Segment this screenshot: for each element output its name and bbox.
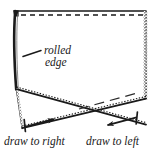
rolled-edge-label-line1: rolled	[44, 44, 71, 56]
panel-fill	[15, 11, 146, 128]
rolled-edge-label-line2: edge	[44, 56, 71, 68]
rolled-edge-label: rolled edge	[44, 44, 71, 69]
draw-to-right-arrow-tick	[24, 120, 25, 132]
right-gathered-edge-texture	[144, 11, 148, 100]
draw-to-right-caption: draw to right	[4, 135, 65, 147]
draw-to-left-caption: draw to left	[86, 135, 139, 147]
diagram-canvas	[0, 0, 158, 152]
rolled-edge-diagram: rolled edge draw to right draw to left	[0, 0, 158, 152]
